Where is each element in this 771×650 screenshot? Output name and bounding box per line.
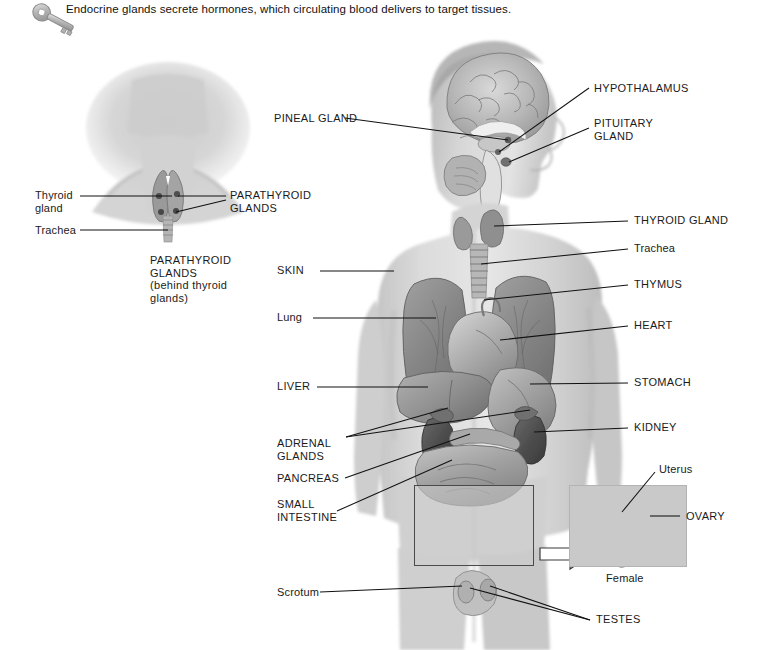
label-parathyroid-glands-right: PARATHYROID GLANDS [230,189,311,214]
leader-kidney [534,428,628,432]
leader-uterus [622,472,655,512]
label-hypothalamus: HYPOTHALAMUS [594,82,689,95]
leader-adrenal-b [346,410,530,437]
label-ovary: OVARY [686,510,725,523]
label-female-caption: Female [606,572,644,585]
leader-heart [500,326,628,340]
label-thyroid-gland-right: THYROID GLAND [634,214,728,227]
leader-pancreas [345,434,470,478]
leader-parathyroid-right-b [176,200,226,212]
leader-thymus [484,285,628,300]
leader-testes-b [490,586,590,620]
label-adrenal-glands: ADRENAL GLANDS [277,437,331,462]
leader-pituitary-gland [509,128,589,162]
label-pineal-gland: PINEAL GLAND [274,112,357,125]
leader-adrenal-a [346,408,448,437]
leader-testes-a [470,588,590,620]
label-pancreas: PANCREAS [277,472,339,485]
label-heart: HEART [634,319,673,332]
label-small-intestine: SMALL INTESTINE [277,498,337,523]
leader-pineal-gland [345,118,508,140]
leader-trachea-right [481,249,628,264]
label-parathyroid-glands-note: PARATHYROID GLANDS (behind thyroid gland… [150,254,231,304]
header-caption: Endocrine glands secrete hormones, which… [66,2,686,16]
label-trachea-left: Trachea [35,224,76,237]
leader-thyroid-gland-right [494,221,628,226]
label-thyroid-gland-left: Thyroid gland [35,189,73,214]
leader-stomach [530,383,628,384]
label-pituitary-gland: PITUITARY GLAND [594,117,653,142]
label-stomach: STOMACH [634,376,691,389]
label-skin: SKIN [277,264,304,277]
leader-hypothalamus [499,88,589,152]
label-liver: LIVER [277,380,310,393]
label-uterus: Uterus [659,463,692,476]
diagram-canvas: Endocrine glands secrete hormones, which… [0,0,771,650]
label-testes: TESTES [596,613,641,626]
leader-small-intestine [337,460,452,511]
label-kidney: KIDNEY [634,421,677,434]
label-thymus: THYMUS [634,278,682,291]
label-lung: Lung [277,311,302,324]
label-trachea-right: Trachea [634,242,675,255]
label-scrotum: Scrotum [277,586,319,599]
leader-scrotum [320,586,462,592]
